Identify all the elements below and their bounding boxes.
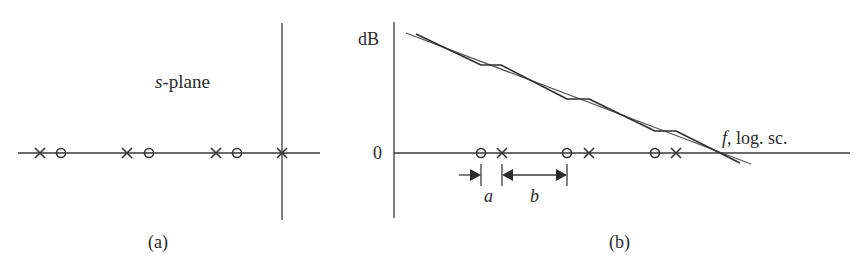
caption-a: (a) xyxy=(148,232,168,253)
panel-b: dB 0 a b xyxy=(358,22,850,253)
panel-a: s-plane (a) xyxy=(18,23,320,253)
dimension-a: a xyxy=(459,164,493,206)
stepped-response-curve xyxy=(416,34,740,163)
frequency-axis-label: f, log. sc. xyxy=(722,128,788,148)
dimension-b: b xyxy=(502,164,567,206)
arrow-right-icon xyxy=(470,169,481,181)
arrow-left-icon xyxy=(502,169,513,181)
dimension-b-label: b xyxy=(530,186,539,206)
arrow-right-icon xyxy=(556,169,567,181)
caption-b: (b) xyxy=(609,232,630,253)
s-plane-label: s-plane xyxy=(155,71,210,92)
zero-db-label: 0 xyxy=(373,143,382,163)
db-axis-label: dB xyxy=(358,29,379,49)
figure-canvas: s-plane (a) dB 0 a xyxy=(0,0,862,272)
dimension-a-label: a xyxy=(484,186,493,206)
